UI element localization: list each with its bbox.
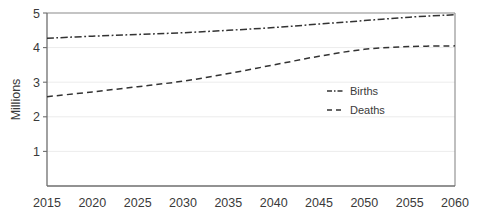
x-tick-label-2050: 2050 <box>350 196 378 210</box>
y-tick-label-1: 1 <box>33 145 40 159</box>
line-chart: 5 4 3 2 1 Millions 2015 2020 2025 2030 2… <box>0 0 480 218</box>
x-tick-label-2015: 2015 <box>33 196 61 210</box>
x-tick-label-2020: 2020 <box>78 196 106 210</box>
x-tick-label-2040: 2040 <box>260 196 288 210</box>
legend-label-deaths: Deaths <box>350 104 385 116</box>
x-tick-label-2055: 2055 <box>396 196 424 210</box>
y-tick-label-5: 5 <box>33 7 40 21</box>
y-axis-tick-labels: 5 4 3 2 1 <box>33 7 40 159</box>
x-axis-tick-labels: 2015 2020 2025 2030 2035 2040 2045 2050 … <box>33 196 469 210</box>
plot-area-background <box>47 13 455 186</box>
y-axis-title: Millions <box>9 79 23 121</box>
y-tick-label-3: 3 <box>33 76 40 90</box>
y-tick-label-2: 2 <box>33 110 40 124</box>
legend-label-births: Births <box>350 85 379 97</box>
x-tick-label-2030: 2030 <box>169 196 197 210</box>
x-tick-label-2045: 2045 <box>305 196 333 210</box>
chart-container: 5 4 3 2 1 Millions 2015 2020 2025 2030 2… <box>0 0 480 218</box>
y-tick-label-4: 4 <box>33 41 40 55</box>
x-tick-label-2035: 2035 <box>214 196 242 210</box>
x-tick-label-2025: 2025 <box>124 196 152 210</box>
x-tick-label-2060: 2060 <box>441 196 469 210</box>
